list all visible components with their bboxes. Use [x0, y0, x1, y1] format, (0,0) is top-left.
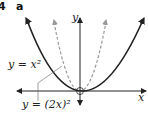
y-axis-label: y — [72, 11, 78, 24]
curve-x-squared — [27, 20, 143, 91]
curve-label-2x-squared: y = (2x)² — [22, 98, 71, 111]
x-axis-label: x — [138, 91, 144, 104]
curve-label-x-squared: y = x² — [8, 58, 41, 71]
graph-figure: 4 a y x y = x² y = (2x)² — [0, 0, 148, 116]
